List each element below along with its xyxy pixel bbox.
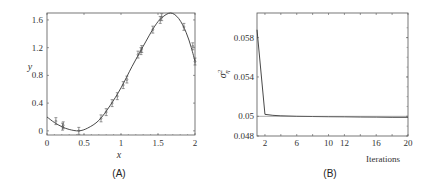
panel-b-x-label: Iterations — [366, 154, 400, 164]
x-tick-label: 6 — [294, 138, 299, 148]
x-tick-label: 2 — [193, 138, 198, 148]
x-tick-label: 12 — [340, 138, 349, 148]
x-tick-label: 16 — [372, 138, 382, 148]
panel-a-x-label: x — [116, 149, 122, 160]
panel-a-chart: 00.511.52 00.40.81.21.6 x y (A) — [27, 13, 197, 179]
x-tick-label: 1.5 — [152, 138, 164, 148]
panel-b-series — [257, 30, 408, 118]
panel-a-y-label: y — [27, 61, 33, 72]
panel-b-chart: 2610121620 0.0480.050.0540.058 Iteration… — [216, 13, 413, 179]
panel-a-caption: (A) — [112, 168, 125, 179]
y-tick-label: 0.048 — [234, 131, 255, 141]
y-tick-label: 0.054 — [234, 72, 255, 82]
panel-a-x-ticks: 00.511.52 — [45, 13, 198, 148]
x-tick-label: 2 — [263, 138, 268, 148]
figure: 00.511.52 00.40.81.21.6 x y (A) 26101216… — [0, 0, 429, 185]
panel-a-frame — [47, 13, 195, 135]
y-tick-label: 1.2 — [32, 43, 43, 53]
panel-a-fitted-curve — [47, 13, 195, 131]
panel-b-x-ticks: 2610121620 — [263, 13, 413, 148]
fitted-curve-line — [47, 13, 195, 131]
panel-b-y-label: σ2η — [216, 69, 231, 78]
y-tick-label: 0.058 — [234, 33, 255, 43]
x-tick-label: 0 — [45, 138, 50, 148]
x-tick-label: 10 — [324, 138, 334, 148]
x-tick-label: 1 — [119, 138, 124, 148]
variance-series-line — [257, 30, 408, 118]
panel-b-y-ticks: 0.0480.050.0540.058 — [234, 28, 408, 141]
panel-b-caption: (B) — [323, 168, 336, 179]
y-tick-label: 0.4 — [32, 98, 44, 108]
x-tick-label: 20 — [404, 138, 414, 148]
y-tick-label: 0.8 — [32, 70, 44, 80]
y-tick-label: 0.05 — [238, 111, 254, 121]
y-tick-label: 1.6 — [32, 15, 44, 25]
svg-text:σ2η: σ2η — [216, 69, 231, 78]
x-tick-label: 0.5 — [78, 138, 90, 148]
y-tick-label: 0 — [39, 126, 44, 136]
panel-a-data-points — [54, 14, 196, 135]
